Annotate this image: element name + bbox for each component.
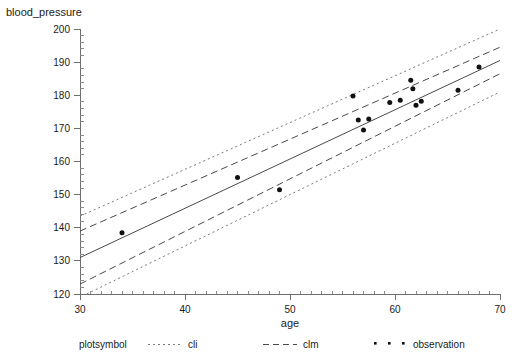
regression-plot: blood_pressure 120 130 140 150 160 170 1… [0, 0, 531, 362]
observation-point [361, 128, 366, 133]
x-tick-label: 50 [284, 304, 296, 315]
observation-point [410, 86, 415, 91]
observation-point [408, 78, 413, 83]
observation-point [387, 100, 392, 105]
observation-points-layer [120, 65, 482, 236]
y-tick-label: 200 [53, 24, 70, 35]
x-tick-label: 70 [494, 304, 506, 315]
y-tick-label: 120 [53, 289, 70, 300]
observation-point [398, 98, 403, 103]
legend-label-cli: cli [188, 339, 197, 350]
y-tick-label: 140 [53, 222, 70, 233]
series-clm_upper [80, 47, 500, 231]
observation-point [351, 93, 356, 98]
confidence-bands-layer [80, 29, 500, 294]
legend-label-observation: observation [413, 339, 465, 350]
x-axis-minor-ticks [91, 291, 490, 295]
chart-canvas: blood_pressure 120 130 140 150 160 170 1… [0, 0, 531, 362]
observation-point [120, 230, 125, 235]
y-tick-label: 180 [53, 90, 70, 101]
legend-swatch-observation [374, 342, 405, 345]
observation-point [419, 99, 424, 104]
legend-caption: plotsymbol [79, 339, 127, 350]
observation-point [414, 103, 419, 108]
y-tick-label: 190 [53, 57, 70, 68]
x-tick-label: 60 [389, 304, 401, 315]
x-axis-title: age [281, 317, 299, 329]
series-cli_lower [87, 92, 500, 294]
observation-point [366, 117, 371, 122]
y-tick-label: 170 [53, 123, 70, 134]
y-axis-title: blood_pressure [6, 6, 82, 18]
y-tick-label: 160 [53, 156, 70, 167]
observation-point [356, 118, 361, 123]
series-cli_upper [80, 29, 500, 216]
observation-point [477, 65, 482, 70]
observation-point [456, 88, 461, 93]
legend-label-clm: clm [303, 339, 319, 350]
y-tick-label: 150 [53, 189, 70, 200]
x-tick-label: 40 [179, 304, 191, 315]
y-axis-minor-ticks [80, 36, 84, 288]
series-fit [80, 60, 500, 257]
y-tick-label: 130 [53, 255, 70, 266]
x-axis-ticks: 30 40 50 60 70 [74, 294, 506, 315]
observation-point [235, 175, 240, 180]
y-axis-ticks: 120 130 140 150 160 170 180 190 200 [53, 24, 80, 300]
legend: plotsymbol cli clm observation [79, 339, 465, 350]
series-clm_lower [80, 74, 500, 284]
observation-point [277, 187, 282, 192]
x-tick-label: 30 [74, 304, 86, 315]
